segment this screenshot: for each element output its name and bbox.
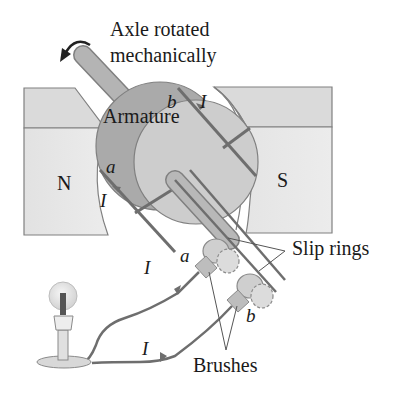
north-pole: [24, 88, 108, 235]
title-line-2: mechanically: [110, 44, 217, 67]
title-line-1: Axle rotated: [110, 18, 209, 40]
current-wire-lower-label: I: [141, 338, 150, 359]
coil-end-b-label: b: [167, 91, 177, 112]
current-coil-left-label: I: [99, 190, 108, 211]
slip-rings-label: Slip rings: [292, 237, 369, 260]
brushes-label: Brushes: [193, 354, 258, 376]
light-bulb-icon: [37, 282, 91, 368]
brush-b-label: b: [246, 305, 256, 326]
coil-end-a-label: a: [106, 156, 116, 177]
current-wire-upper-label: I: [143, 257, 152, 278]
ac-generator-diagram: Axle rotated mechanically Armature b I a…: [0, 0, 408, 397]
south-pole-label: S: [277, 169, 288, 191]
brush-a-label: a: [180, 245, 190, 266]
brushes-callout: [209, 272, 237, 350]
north-pole-label: N: [57, 172, 71, 194]
